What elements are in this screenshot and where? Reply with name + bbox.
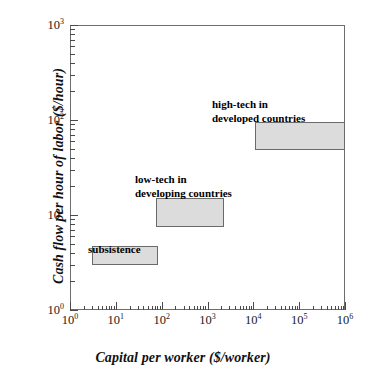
x-tick-minor [148,306,149,311]
y-tick-minor [70,141,75,142]
annotation-line: developed countries [212,112,305,126]
annotation-line: high-tech in [212,98,305,112]
x-tick-major [70,302,71,310]
x-tick-minor [109,306,110,311]
x-tick-minor [111,306,112,311]
y-tick-minor [70,236,75,237]
x-tick-major [116,302,117,310]
annotation-line: developing countries [135,187,232,201]
y-tick-minor [70,91,75,92]
y-tick-label: 103 [34,19,64,32]
x-tick-minor [249,306,250,311]
x-tick-minor [313,306,314,311]
y-tick-minor [70,158,75,159]
x-tick-minor [321,306,322,311]
x-tick-minor [343,306,344,311]
x-tick-major [299,302,300,310]
x-tick-minor [292,306,293,311]
y-tick-major [70,25,78,26]
y-tick-major [70,310,78,311]
y-tick-minor [70,40,75,41]
x-tick-minor [155,306,156,311]
x-tick-minor [200,306,201,311]
x-tick-minor [84,306,85,311]
x-tick-minor [143,306,144,311]
y-tick-minor [70,230,75,231]
y-tick-minor [70,46,75,47]
x-tick-minor [203,306,204,311]
x-tick-minor [157,306,158,311]
data-box-high-tech-developed [255,122,345,150]
high-tech-label: high-tech indeveloped countries [212,98,305,126]
x-tick-minor [189,306,190,311]
y-tick-minor [70,253,75,254]
y-tick-minor [70,54,75,55]
x-tick-minor [194,306,195,311]
data-box-low-tech-developing [156,198,224,227]
y-tick-minor [70,63,75,64]
x-tick-minor [130,306,131,311]
y-tick-minor [70,281,75,282]
x-tick-minor [285,306,286,311]
x-tick-minor [267,306,268,311]
x-tick-major [253,302,254,310]
y-tick-minor [70,29,75,30]
x-tick-minor [246,306,247,311]
subsistence-label: subsistence [88,243,141,257]
plot-area [70,25,345,310]
x-tick-minor [251,306,252,311]
x-tick-minor [92,306,93,311]
x-tick-minor [160,306,161,311]
y-tick-major [70,120,78,121]
x-tick-label: 102 [153,314,170,327]
x-tick-minor [98,306,99,311]
x-tick-label: 101 [108,314,125,327]
y-tick-minor [70,75,75,76]
y-axis-title: Cash flow per hour of labor ($/hour) [51,34,67,319]
x-tick-minor [243,306,244,311]
x-tick-minor [281,306,282,311]
x-tick-minor [338,306,339,311]
y-tick-minor [70,244,75,245]
x-tick-minor [221,306,222,311]
y-tick-minor [70,219,75,220]
x-tick-minor [240,306,241,311]
x-tick-label: 105 [291,314,308,327]
x-tick-minor [175,306,176,311]
y-tick-minor [70,135,75,136]
x-axis-title: Capital per worker ($/worker) [0,350,366,366]
x-tick-minor [138,306,139,311]
x-tick-minor [335,306,336,311]
x-tick-minor [184,306,185,311]
x-tick-label: 104 [245,314,262,327]
x-tick-major [162,302,163,310]
x-tick-minor [341,306,342,311]
x-tick-major [345,302,346,310]
annotation-line: subsistence [88,243,141,257]
y-tick-minor [70,265,75,266]
x-tick-major [208,302,209,310]
y-tick-minor [70,129,75,130]
x-tick-minor [106,306,107,311]
y-tick-minor [70,124,75,125]
y-tick-minor [70,186,75,187]
y-tick-minor [70,149,75,150]
x-tick-minor [114,306,115,311]
x-tick-minor [205,306,206,311]
annotation-line: low-tech in [135,173,232,187]
x-tick-minor [152,306,153,311]
low-tech-label: low-tech indeveloping countries [135,173,232,201]
x-tick-minor [102,306,103,311]
x-tick-minor [327,306,328,311]
x-tick-minor [297,306,298,311]
y-tick-minor [70,34,75,35]
chart-figure: 100101102103100101102103104105106 subsis… [0,0,366,377]
x-tick-minor [229,306,230,311]
x-tick-label: 103 [199,314,216,327]
x-tick-minor [295,306,296,311]
x-tick-minor [331,306,332,311]
x-tick-label: 106 [337,314,354,327]
x-tick-minor [275,306,276,311]
y-tick-minor [70,170,75,171]
y-tick-major [70,215,78,216]
